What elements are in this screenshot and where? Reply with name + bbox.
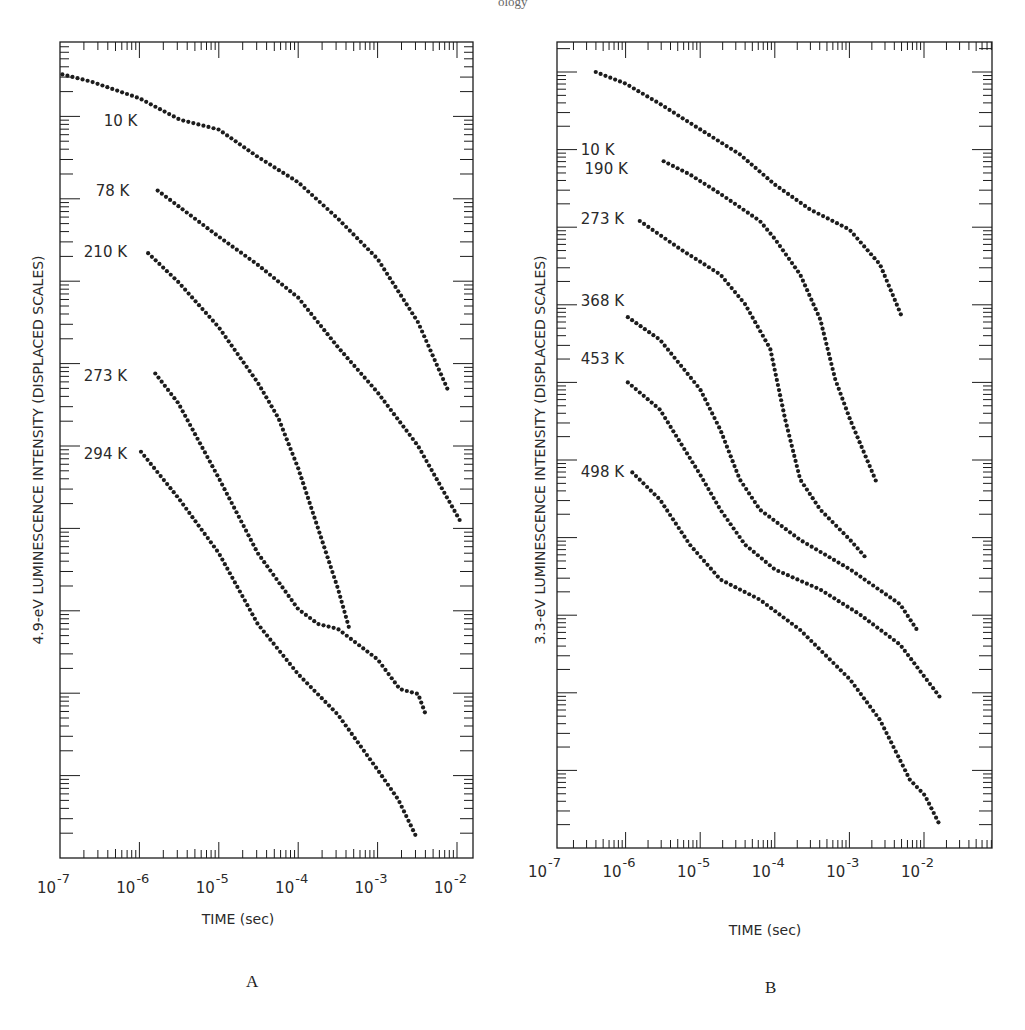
data-point (733, 149, 737, 153)
data-point (642, 222, 646, 226)
data-point (769, 352, 773, 356)
data-point (685, 171, 689, 175)
data-point (858, 440, 862, 444)
data-point (752, 550, 756, 554)
data-point (827, 516, 831, 520)
data-point (796, 536, 800, 540)
data-point (773, 368, 777, 372)
data-point (768, 232, 772, 236)
data-point (793, 265, 797, 269)
data-point (823, 553, 827, 557)
data-point (888, 595, 892, 599)
data-point (732, 526, 736, 530)
data-point (738, 535, 742, 539)
data-point (862, 554, 866, 558)
data-point (689, 173, 693, 177)
data-point (746, 211, 750, 215)
data-point (841, 531, 845, 535)
data-point (830, 520, 834, 524)
data-point (672, 356, 676, 360)
data-point (856, 546, 860, 550)
data-point (788, 439, 792, 443)
data-point (677, 526, 681, 530)
series-label: 190 K (585, 160, 629, 178)
data-point (656, 336, 660, 340)
data-point (787, 257, 791, 261)
data-point (698, 127, 702, 131)
data-point (884, 731, 888, 735)
data-point (784, 527, 788, 531)
data-point (880, 722, 884, 726)
data-point (903, 768, 907, 772)
data-point (665, 509, 669, 513)
data-point (720, 141, 724, 145)
data-point (698, 260, 702, 264)
data-point (654, 404, 658, 408)
series-label: 368 K (581, 292, 625, 310)
data-point (807, 293, 811, 297)
data-point (838, 527, 842, 531)
data-point (777, 388, 781, 392)
data-point (811, 496, 815, 500)
data-point (867, 580, 871, 584)
data-point (897, 601, 901, 605)
data-point (738, 478, 742, 482)
data-point (627, 84, 631, 88)
data-point (656, 496, 660, 500)
data-point (841, 602, 845, 606)
data-point (850, 607, 854, 611)
data-point (802, 632, 806, 636)
data-point (694, 257, 698, 261)
data-point (816, 505, 820, 509)
data-point (817, 646, 821, 650)
x-axis-label: TIME (sec) (728, 922, 802, 938)
data-point (813, 500, 817, 504)
data-point (613, 77, 617, 81)
data-point (726, 518, 730, 522)
data-point (776, 569, 780, 573)
x-tick-label: 10-6 (603, 855, 636, 881)
data-point (852, 542, 856, 546)
data-point (740, 298, 744, 302)
data-point (650, 400, 654, 404)
data-point (716, 271, 720, 275)
data-point (860, 445, 864, 449)
data-point (805, 582, 809, 586)
data-point (642, 394, 646, 398)
x-tick-label: 10-5 (677, 855, 710, 881)
data-point (689, 254, 693, 258)
data-point (847, 416, 851, 420)
data-point (720, 274, 724, 278)
data-point (790, 261, 794, 265)
data-point (824, 654, 828, 658)
data-point (918, 789, 922, 793)
data-point (879, 629, 883, 633)
data-point (645, 94, 649, 98)
data-point (717, 425, 721, 429)
data-point (724, 196, 728, 200)
data-point (756, 504, 760, 508)
data-point (830, 219, 834, 223)
data-point (802, 483, 806, 487)
data-point (690, 460, 694, 464)
data-point (869, 252, 873, 256)
data-point (780, 403, 784, 407)
data-point (863, 577, 867, 581)
data-point (709, 491, 713, 495)
data-point (850, 569, 854, 573)
data-point (905, 773, 909, 777)
data-point (775, 521, 779, 525)
data-point (865, 700, 869, 704)
data-point (759, 508, 763, 512)
data-point (934, 816, 938, 820)
data-point (695, 384, 699, 388)
data-point (751, 316, 755, 320)
data-point (874, 478, 878, 482)
data-point (775, 240, 779, 244)
data-point (852, 233, 856, 237)
data-point (845, 535, 849, 539)
data-point (651, 333, 655, 337)
data-point (753, 500, 757, 504)
data-point (819, 588, 823, 592)
data-point (882, 726, 886, 730)
